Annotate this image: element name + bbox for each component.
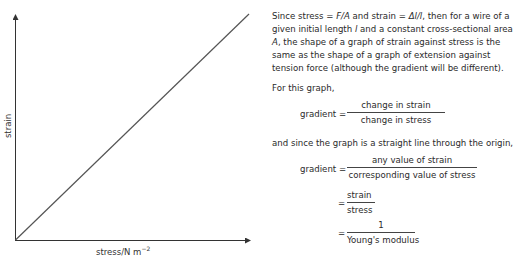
x-axis-label: stress/N m−2 [96,245,150,257]
equation-4-denominator: Young's modulus [347,232,415,245]
equation-1-numerator: change in strain [347,100,445,112]
equation-3-fraction: strain stress [347,190,375,215]
intro-text: and a constant cross-sectional area [357,24,513,34]
data-line [16,14,250,240]
equation-3-lhs: = [338,198,345,208]
equation-2-lhs: gradient = [300,164,346,174]
equation-1-denominator: change in stress [347,112,445,125]
equation-3-denominator: stress [347,202,375,215]
equation-2-numerator: any value of strain [347,155,477,167]
y-axis-label: strain [3,106,13,146]
intro-text: and strain = [350,11,409,21]
strain-stress-graph: strain stress/N m−2 [0,0,270,267]
equation-2-denominator: corresponding value of stress [347,167,477,180]
x-axis-label-text: stress/N m [96,247,141,257]
equation-4-fraction: 1 Young's modulus [347,220,415,245]
intro-text: , the shape of a graph of strain against… [272,37,504,73]
for-this-graph-text: For this graph, [272,83,334,93]
equation-4-lhs: = [338,228,345,238]
equation-1-fraction: change in strain change in stress [347,100,445,125]
graph-canvas [0,0,270,267]
equation-2-fraction: any value of strain corresponding value … [347,155,477,180]
intro-fa: F/A [336,11,350,21]
intro-text: Since stress = [272,11,336,21]
intro-paragraph: Since stress = F/A and strain = Δl/l, th… [272,10,520,75]
intro-dl: Δl/l [409,11,423,21]
and-since-text: and since the graph is a straight line t… [272,138,513,148]
explanation-text: Since stress = F/A and strain = Δl/l, th… [272,10,520,75]
equation-3-numerator: strain [347,190,375,202]
equation-1-lhs: gradient = [300,109,346,119]
x-axis-label-exponent: −2 [141,245,150,252]
equation-4-numerator: 1 [347,220,415,232]
